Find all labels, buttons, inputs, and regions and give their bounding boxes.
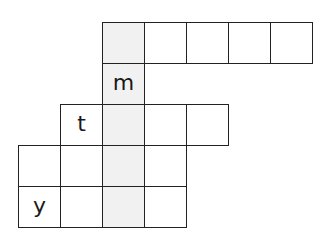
grid-cell-r2-c3[interactable] [144, 104, 187, 146]
cell-letter: t [77, 113, 86, 135]
grid-cell-r4-c1[interactable] [60, 186, 103, 228]
grid-cell-r0-c2-shaded[interactable] [102, 22, 145, 64]
grid-cell-r3-c2-shaded[interactable] [102, 145, 145, 187]
grid-cell-r0-c5[interactable] [228, 22, 271, 64]
grid-cell-r1-c2-shaded[interactable]: m [102, 63, 145, 105]
grid-cell-r4-c3[interactable] [144, 186, 187, 228]
grid-cell-r2-c2-shaded[interactable] [102, 104, 145, 146]
grid-cell-r3-c1[interactable] [60, 145, 103, 187]
grid-cell-r2-c1[interactable]: t [60, 104, 103, 146]
grid-cell-r2-c4[interactable] [186, 104, 229, 146]
grid-cell-r0-c3[interactable] [144, 22, 187, 64]
cell-letter: y [33, 195, 46, 217]
grid-cell-r4-c0[interactable]: y [18, 186, 61, 228]
crossword-grid: mty [0, 0, 329, 234]
grid-cell-r3-c0[interactable] [18, 145, 61, 187]
grid-cell-r0-c4[interactable] [186, 22, 229, 64]
grid-cell-r0-c6[interactable] [270, 22, 313, 64]
grid-cell-r4-c2-shaded[interactable] [102, 186, 145, 228]
grid-cell-r3-c3[interactable] [144, 145, 187, 187]
cell-letter: m [113, 72, 134, 94]
